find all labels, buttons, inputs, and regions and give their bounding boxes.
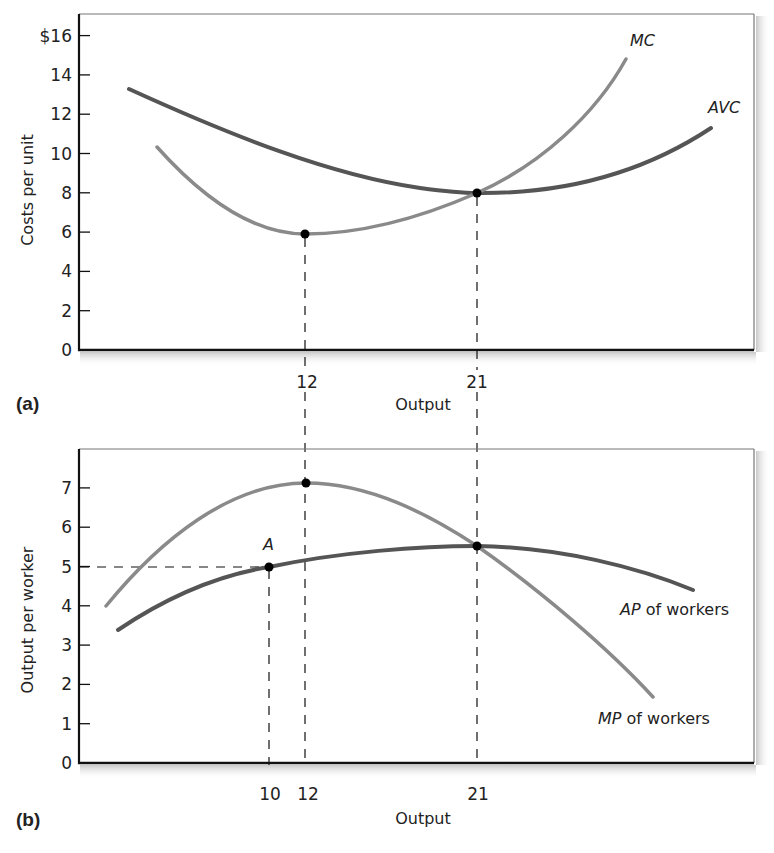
y-tick-label: 8 — [61, 183, 72, 203]
frame-shadow-right — [756, 16, 770, 352]
x-tick-label: 21 — [467, 784, 489, 804]
x-tick-label: 21 — [466, 372, 488, 392]
x-axis-title: Output — [395, 809, 451, 828]
frame-shadow-bottom — [80, 765, 756, 779]
y-tick-label: 14 — [50, 65, 72, 85]
y-tick-label: 2 — [61, 674, 72, 694]
y-tick-labels: 0 2 4 6 8 10 12 14 $16 — [40, 26, 72, 360]
mc-avc-intersection-point — [473, 189, 482, 198]
x-tick-label: 12 — [297, 784, 319, 804]
x-axis-title: Output — [395, 395, 451, 414]
ap-label-italic: AP — [619, 600, 641, 619]
y-axis-title: Costs per unit — [18, 134, 37, 246]
y-tick-label: 3 — [61, 635, 72, 655]
dashed-guides — [80, 197, 477, 765]
y-tick-label: 4 — [61, 596, 72, 616]
mc-curve — [157, 59, 626, 234]
ap-label: AP of workers — [619, 600, 729, 619]
frame-shadow-right — [756, 451, 770, 765]
y-ticks — [79, 36, 90, 311]
mc-min-point — [301, 230, 310, 239]
y-axis-title: Output per worker — [18, 546, 37, 693]
frame-shadow-bottom — [80, 352, 756, 366]
y-tick-label: 0 — [61, 753, 72, 773]
y-tick-label: 4 — [61, 261, 72, 281]
mp-label-rest: of workers — [621, 709, 710, 728]
avc-label: AVC — [707, 98, 741, 117]
avc-curve — [129, 89, 711, 193]
ap-label-rest: of workers — [641, 600, 730, 619]
x-tick-label: 12 — [296, 372, 318, 392]
point-a — [265, 563, 274, 572]
y-tick-label: 6 — [61, 222, 72, 242]
y-tick-label: 2 — [61, 301, 72, 321]
mp-max-point — [302, 479, 311, 488]
y-tick-label: 6 — [61, 517, 72, 537]
mp-ap-intersection-point — [473, 542, 482, 551]
y-tick-label: 5 — [61, 557, 72, 577]
panel-label-b: (b) — [16, 809, 40, 830]
y-ticks — [79, 488, 90, 724]
y-tick-label: 12 — [50, 104, 72, 124]
panel-b: 0 1 2 3 4 5 6 7 Output per worker A AP o… — [16, 449, 770, 830]
y-tick-label: 0 — [61, 340, 72, 360]
y-tick-label: 10 — [50, 144, 72, 164]
y-tick-label: 7 — [61, 478, 72, 498]
y-tick-label: 1 — [61, 714, 72, 734]
y-tick-labels: 0 1 2 3 4 5 6 7 — [61, 478, 72, 773]
mp-label-italic: MP — [598, 709, 622, 728]
point-a-label: A — [262, 535, 274, 554]
y-tick-label: $16 — [40, 26, 72, 46]
x-tick-label: 10 — [259, 784, 281, 804]
mp-label: MP of workers — [598, 709, 710, 728]
panel-label-a: (a) — [16, 393, 39, 414]
figure: 0 2 4 6 8 10 12 14 $16 Costs per unit MC… — [0, 0, 774, 853]
panel-a: 0 2 4 6 8 10 12 14 $16 Costs per unit MC… — [16, 14, 770, 414]
ap-curve — [118, 546, 693, 630]
mc-label: MC — [630, 31, 656, 50]
